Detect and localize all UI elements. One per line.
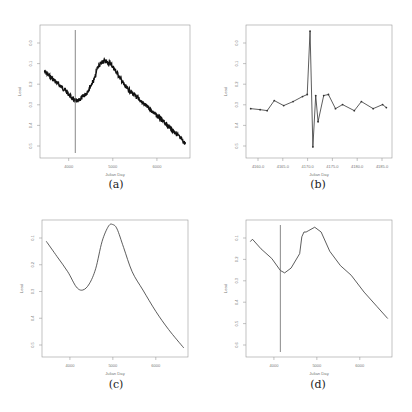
data-point [382, 104, 384, 106]
data-point [353, 110, 355, 112]
x-tick-label: 6000 [152, 164, 162, 169]
y-axis-label: Lead [223, 283, 228, 293]
plot-frame [246, 25, 392, 158]
y-tick-label: 0.2 [28, 81, 33, 87]
y-tick-label: 0.5 [234, 320, 239, 326]
y-axis-label: Lead [17, 86, 22, 96]
y-tick-label: 0.4 [234, 122, 239, 128]
chart-d: 4000500060000.10.20.30.40.50.6Julian Day… [206, 206, 412, 381]
data-point [292, 101, 294, 103]
y-tick-label: 0.1 [234, 234, 239, 240]
y-tick-label: 0.3 [28, 101, 33, 107]
data-point [317, 121, 319, 123]
panel-d: 4000500060000.10.20.30.40.50.6Julian Day… [206, 206, 412, 412]
chart-c: 4000500060000.10.20.30.40.5Julian DayLea… [0, 206, 206, 381]
caption-d: (d) [298, 378, 338, 391]
y-tick-label: 0.0 [28, 39, 33, 45]
y-tick-label: 0.5 [30, 341, 35, 347]
y-tick-label: 0.1 [30, 234, 35, 240]
x-tick-label: 5000 [312, 363, 322, 368]
y-tick-label: 0.0 [234, 39, 239, 45]
y-tick-label: 0.3 [30, 288, 35, 294]
y-axis-label: Lead [19, 283, 24, 293]
y-tick-label: 0.2 [30, 261, 35, 267]
y-tick-label: 0.4 [30, 315, 35, 321]
y-tick-label: 0.2 [234, 81, 239, 87]
x-tick-label: 4175.0 [326, 164, 339, 169]
panel-b: 4160.04165.04170.04175.04180.04185.00.00… [206, 0, 412, 206]
data-point [266, 110, 268, 112]
data-series [44, 59, 185, 144]
data-point [342, 104, 344, 106]
x-axis-label: Julian Day [105, 371, 125, 376]
y-tick-label: 0.1 [28, 60, 33, 66]
y-tick-label: 0.4 [28, 122, 33, 128]
data-point [273, 100, 275, 102]
y-tick-label: 0.5 [234, 142, 239, 148]
x-tick-label: 4185.0 [376, 164, 389, 169]
x-axis-label: Julian Day [105, 172, 125, 177]
data-point [323, 95, 325, 97]
plot-frame [246, 220, 392, 357]
data-point [385, 107, 387, 109]
chart-b: 4160.04165.04170.04175.04180.04185.00.00… [206, 0, 412, 180]
x-tick-label: 4160.0 [252, 164, 265, 169]
x-tick-label: 6000 [151, 363, 161, 368]
x-axis-label: Julian Day [309, 172, 329, 177]
y-tick-label: 0.6 [234, 341, 239, 347]
x-tick-label: 4000 [65, 363, 75, 368]
caption-c: (c) [96, 378, 136, 391]
data-point [360, 101, 362, 103]
data-point [328, 94, 330, 96]
y-tick-label: 0.3 [234, 101, 239, 107]
y-tick-label: 0.5 [28, 142, 33, 148]
panel-a: 4000500060000.00.10.20.30.40.5Julian Day… [0, 0, 206, 206]
panel-c: 4000500060000.10.20.30.40.5Julian DayLea… [0, 206, 206, 412]
data-series [250, 227, 387, 318]
data-series [251, 31, 387, 147]
y-tick-label: 0.2 [234, 256, 239, 262]
data-point [312, 146, 314, 148]
data-point [302, 96, 304, 98]
data-point [335, 108, 337, 110]
x-tick-label: 4000 [269, 363, 279, 368]
x-tick-label: 4170.0 [301, 164, 314, 169]
data-point [250, 108, 252, 110]
plot-frame [42, 220, 188, 357]
caption-b: (b) [298, 178, 338, 191]
x-tick-label: 4165.0 [277, 164, 290, 169]
x-tick-label: 5000 [108, 363, 118, 368]
x-tick-label: 4180.0 [351, 164, 364, 169]
y-axis-label: Lead [223, 86, 228, 96]
y-tick-label: 0.4 [234, 299, 239, 305]
y-tick-label: 0.3 [234, 277, 239, 283]
x-axis-label: Julian Day [309, 371, 329, 376]
data-point [283, 105, 285, 107]
data-point [259, 109, 261, 111]
x-tick-label: 4000 [64, 164, 74, 169]
data-point [309, 30, 311, 32]
y-tick-label: 0.1 [234, 60, 239, 66]
chart-a: 4000500060000.00.10.20.30.40.5Julian Day… [0, 0, 206, 180]
plot-frame [40, 25, 190, 158]
x-tick-label: 6000 [355, 363, 365, 368]
data-point [315, 95, 317, 97]
data-point [372, 108, 374, 110]
caption-a: (a) [96, 178, 136, 191]
data-point [306, 94, 308, 96]
x-tick-label: 5000 [108, 164, 118, 169]
data-series [46, 224, 183, 348]
